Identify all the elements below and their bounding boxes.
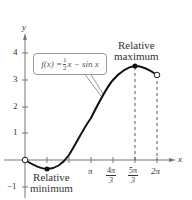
relative-min-label: Relative minimum — [30, 172, 73, 194]
x-tick-2pi: 2π — [151, 166, 160, 176]
open-endpoint-start — [22, 157, 28, 163]
y-tick-3: 3 — [13, 74, 18, 84]
function-rest: x − sin x — [67, 59, 98, 69]
y-tick-neg1: −1 — [7, 181, 17, 191]
x-tick-4pi-3: 4π 3 — [106, 166, 116, 185]
y-tick-1: 1 — [13, 127, 18, 137]
x-tick-pi: π — [88, 166, 93, 176]
function-fx: f(x) = — [41, 59, 62, 69]
x-tick-5pi-3: 5π 3 — [128, 166, 138, 185]
function-curve — [25, 66, 157, 169]
function-label-box: f(x) = 1 2 x − sin x — [33, 53, 107, 75]
chart-canvas — [0, 0, 192, 200]
relative-max-label: Relative maximum — [114, 40, 159, 62]
relative-max-point — [133, 64, 138, 69]
y-axis-label: y — [22, 22, 26, 32]
x-axis-label: x — [178, 154, 182, 164]
y-axis-arrow-icon — [23, 33, 27, 40]
open-endpoint-end — [154, 72, 160, 78]
x-axis-arrow-icon — [169, 158, 176, 162]
y-tick-4: 4 — [13, 47, 18, 57]
y-tick-2: 2 — [13, 101, 18, 111]
function-half-fraction: 1 2 — [63, 57, 67, 72]
